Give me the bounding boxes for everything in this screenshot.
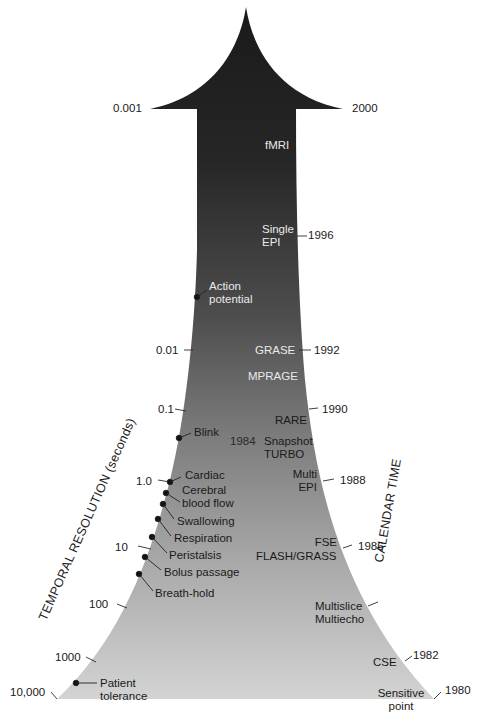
- arrow-shape: [0, 0, 485, 728]
- label-flash-grass: FLASH/GRASS: [256, 550, 337, 563]
- tick-0001: 0.001: [113, 102, 142, 114]
- label-swallowing: Swallowing: [177, 515, 235, 528]
- year-1996: 1996: [308, 229, 334, 241]
- label-turbo: TURBO: [264, 448, 304, 461]
- tick-001: 0.01: [156, 344, 178, 356]
- tick-10000: 10,000: [10, 686, 45, 698]
- tick-100: 100: [89, 598, 108, 610]
- year-1984: 1984: [230, 435, 256, 448]
- label-single: Single: [262, 223, 294, 236]
- label-breathhold: Breath-hold: [155, 587, 214, 600]
- label-fse: FSE: [300, 536, 337, 549]
- label-cardiac: Cardiac: [185, 469, 225, 482]
- label-multi: Multi: [290, 468, 317, 481]
- year-1988: 1988: [340, 474, 366, 486]
- label-single-epi: EPI: [262, 236, 281, 249]
- label-blood-flow: blood flow: [182, 497, 234, 510]
- tick-1: 1.0: [136, 475, 152, 487]
- label-snapshot: Snapshot: [264, 435, 313, 448]
- label-bolus: Bolus passage: [164, 566, 239, 579]
- label-multislice: Multislice: [315, 600, 362, 613]
- label-mprage: MPRAGE: [248, 370, 298, 383]
- label-multiecho: Multiecho: [315, 613, 364, 626]
- label-respiration: Respiration: [174, 532, 232, 545]
- temporal-resolution-diagram: 0.001 0.01 0.1 1.0 10 100 1000 10,000 20…: [0, 0, 485, 728]
- label-potential: potential: [209, 293, 252, 306]
- label-grase: GRASE: [255, 344, 295, 357]
- label-blink: Blink: [194, 426, 219, 439]
- label-fmri: fMRI: [265, 139, 289, 152]
- year-2000: 2000: [352, 102, 378, 114]
- tick-10: 10: [115, 541, 128, 553]
- label-patient: Patient: [100, 677, 136, 690]
- label-action: Action: [209, 280, 241, 293]
- label-rare: RARE: [275, 414, 307, 427]
- label-peristalsis: Peristalsis: [169, 549, 221, 562]
- year-1990: 1990: [322, 403, 348, 415]
- label-cerebral: Cerebral: [182, 484, 226, 497]
- year-1992: 1992: [314, 344, 340, 356]
- label-cse: CSE: [373, 656, 397, 669]
- label-tolerance: tolerance: [100, 690, 147, 703]
- tick-01: 0.1: [158, 403, 174, 415]
- label-sensitive: Sensitive: [368, 687, 434, 700]
- tick-1000: 1000: [55, 651, 81, 663]
- label-point: point: [368, 700, 434, 713]
- label-multi-epi: EPI: [290, 481, 317, 494]
- year-1980: 1980: [445, 684, 471, 696]
- year-1982: 1982: [413, 649, 439, 661]
